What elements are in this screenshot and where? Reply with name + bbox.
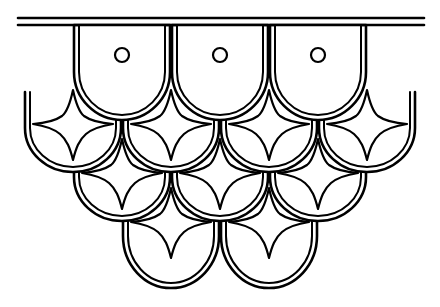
scallop-pattern-svg — [0, 0, 440, 307]
row-one-group — [74, 25, 366, 120]
scale — [270, 25, 366, 120]
scale-inner-arc — [79, 25, 165, 115]
scale — [172, 25, 268, 120]
dot-circle-icon — [311, 48, 325, 62]
scale — [74, 25, 170, 120]
row-three-group — [74, 139, 366, 221]
scale-inner-arc — [177, 25, 263, 115]
scale-inner-arc — [275, 25, 361, 115]
dot-circle-icon — [213, 48, 227, 62]
dot-circle-icon — [115, 48, 129, 62]
artwork-canvas — [0, 0, 440, 307]
